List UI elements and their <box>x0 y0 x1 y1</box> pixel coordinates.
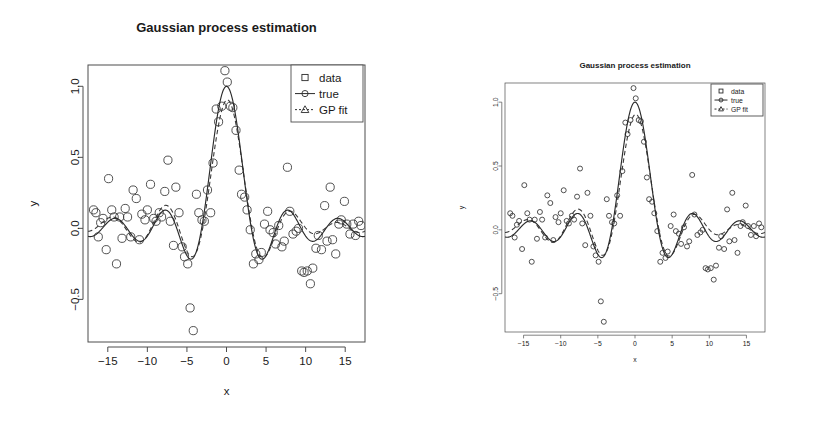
data-point <box>321 202 329 210</box>
data-point <box>578 166 583 171</box>
x-tick-label: −15 <box>518 340 530 347</box>
data-point <box>243 206 251 214</box>
x-tick-label: 10 <box>299 355 312 367</box>
data-point <box>732 238 737 243</box>
data-point <box>759 225 764 230</box>
data-point <box>129 186 137 194</box>
data-point <box>332 250 340 258</box>
legend-label: data <box>319 72 342 84</box>
data-point <box>668 224 673 229</box>
data-point <box>585 190 590 195</box>
data-point <box>317 246 325 254</box>
data-point <box>121 204 129 212</box>
y-tick-label: 0.0 <box>69 220 81 236</box>
data-point <box>169 241 177 249</box>
data-point <box>306 280 314 288</box>
data-point <box>118 234 126 242</box>
data-point <box>525 211 530 216</box>
data-point <box>132 194 140 202</box>
data-point <box>727 239 732 244</box>
data-point <box>520 247 525 252</box>
data-point <box>264 207 272 215</box>
gp-fit-curve <box>88 100 365 258</box>
data-point <box>192 190 200 198</box>
legend-label: data <box>731 88 744 95</box>
data-point <box>598 299 603 304</box>
legend: datatrueGP fit <box>711 84 763 116</box>
data-point <box>748 232 753 237</box>
legend-label: GP fit <box>731 106 748 113</box>
x-tick-label: 0 <box>223 355 229 367</box>
data-point <box>561 188 566 193</box>
data-point <box>685 244 690 249</box>
data-point <box>235 166 243 174</box>
data-point <box>601 319 606 324</box>
legend-label: true <box>731 97 743 104</box>
data-point <box>722 247 727 252</box>
y-axis: −0.50.00.51.0 <box>492 97 502 300</box>
x-tick-label: 10 <box>706 340 714 347</box>
data-point <box>751 224 756 229</box>
data-point <box>658 259 663 264</box>
data-point <box>725 207 730 212</box>
x-tick-label: 15 <box>339 355 352 367</box>
x-axis: −15−10−5051015 <box>518 335 751 347</box>
data-point <box>553 215 558 220</box>
y-tick-label: 1.0 <box>69 78 81 94</box>
data-point <box>665 249 670 254</box>
data-point <box>679 241 684 246</box>
x-tick-label: 15 <box>743 340 751 347</box>
data-point <box>184 260 192 268</box>
x-tick-label: 5 <box>670 340 674 347</box>
y-axis: −0.50.00.51.0 <box>69 78 83 310</box>
data-point <box>221 67 229 75</box>
data-point <box>607 213 612 218</box>
data-point <box>596 259 601 264</box>
data-point <box>534 236 539 241</box>
x-axis: −15−10−5051015 <box>98 347 352 367</box>
data-point <box>730 190 735 195</box>
data-point <box>104 175 112 183</box>
x-axis-label: x <box>633 356 637 363</box>
data-point <box>112 260 120 268</box>
x-tick-label: −10 <box>555 340 567 347</box>
legend: datatrueGP fit <box>291 65 363 122</box>
data-point <box>186 304 194 312</box>
data-point <box>716 245 721 250</box>
curves <box>505 102 765 257</box>
data-point <box>512 235 517 240</box>
data-point <box>161 187 169 195</box>
y-axis-label: y <box>458 205 466 209</box>
x-tick-label: −5 <box>180 355 193 367</box>
data-point <box>164 156 172 164</box>
data-point <box>690 172 695 177</box>
data-point <box>631 86 636 91</box>
data-point <box>522 183 527 188</box>
data-point <box>556 220 561 225</box>
data-point <box>604 197 609 202</box>
chart-panel-right: Gaussian process estimation−15−10−505101… <box>430 0 832 424</box>
legend-label: GP fit <box>319 104 348 116</box>
data-point <box>558 211 563 216</box>
data-point <box>189 327 197 335</box>
data-point <box>583 243 588 248</box>
data-point <box>540 217 545 222</box>
chart-title: Gaussian process estimation <box>136 20 317 35</box>
data-point <box>232 126 240 134</box>
data-point <box>223 78 231 86</box>
data-point <box>146 180 154 188</box>
y-tick-label: −0.5 <box>69 288 81 311</box>
data-point <box>102 246 110 254</box>
data-point <box>326 183 334 191</box>
data-point <box>340 197 348 205</box>
data-point <box>713 263 718 268</box>
data-point <box>249 260 257 268</box>
chart-panel-left: Gaussian process estimation−15−10−505101… <box>0 0 440 424</box>
x-tick-label: 5 <box>263 355 269 367</box>
data-point <box>123 213 131 221</box>
data-point <box>323 237 331 245</box>
data-point <box>588 213 593 218</box>
data-points <box>508 86 764 325</box>
legend-label: true <box>319 88 339 100</box>
x-axis-label: x <box>224 385 230 397</box>
